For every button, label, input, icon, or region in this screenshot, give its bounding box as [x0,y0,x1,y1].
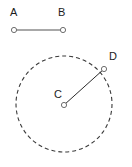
geometry-canvas [0,0,132,167]
point-marker-d [101,66,106,71]
point-marker-a [11,27,16,32]
point-label-a: A [10,7,17,18]
point-label-d: D [109,51,117,62]
point-marker-c [61,102,66,107]
point-label-b: B [58,7,65,18]
point-marker-b [60,27,65,32]
point-label-c: C [54,89,62,100]
geometry-figure: A B C D [0,0,132,167]
radius-cd-line [64,69,104,105]
